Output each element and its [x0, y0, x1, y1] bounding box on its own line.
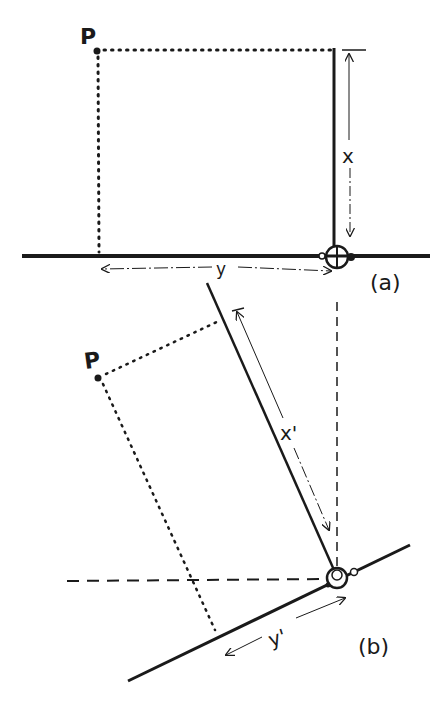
panel-a-dotted-vertical [98, 57, 99, 252]
panel-b-caption: (b) [358, 634, 389, 659]
panel-b-baseline [128, 545, 410, 681]
panel-b-point-p [95, 375, 102, 382]
panel-a-y-arrow-right [238, 267, 331, 271]
panel-a-y-arrow-left [102, 267, 212, 269]
panel-b-pivot-icon [326, 568, 358, 588]
panel-b-y-arrow-left [226, 637, 262, 655]
panel-b-x-tick [232, 308, 244, 311]
panel-b-p-label: P [82, 347, 101, 374]
panel-a-y-label: y [216, 259, 226, 279]
panel-a-p-label: P [80, 24, 96, 49]
diagram-canvas: x y P (a) x' [0, 0, 441, 722]
panel-b-y-arrow-right [296, 598, 345, 618]
panel-a: x y P (a) [22, 24, 430, 295]
panel-b-x-label: x' [280, 421, 297, 445]
panel-a-caption: (a) [370, 270, 401, 295]
panel-a-pivot-icon [319, 246, 355, 268]
panel-b-horizontal-reference [67, 579, 328, 581]
panel-b-rod [207, 283, 334, 570]
panel-b-dotted-to-base [103, 384, 215, 630]
panel-b-y-label: y' [265, 624, 289, 652]
panel-a-x-label: x [342, 144, 354, 168]
panel-b-dotted-to-rod [106, 320, 221, 374]
panel-b: x' y' P (b) [67, 283, 410, 681]
